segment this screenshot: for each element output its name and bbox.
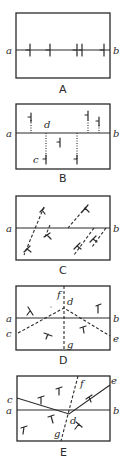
label-d: d — [44, 119, 50, 130]
panel-caption-d: D — [59, 354, 67, 367]
panel-caption-e: E — [60, 446, 67, 459]
panel-a: a b A — [6, 13, 119, 96]
panel-d: a b c d e f g D — [6, 286, 119, 367]
label-a: a — [6, 128, 12, 139]
label-d: d — [67, 296, 73, 307]
label-b: b — [113, 405, 119, 416]
label-b: b — [113, 223, 119, 234]
label-c: c — [7, 394, 13, 405]
panel-e: c a b d e f g E — [6, 375, 119, 459]
panel-b: a b c d B — [6, 104, 119, 185]
label-e: e — [111, 375, 117, 386]
figure-panels: a b A a b c d B — [0, 0, 129, 461]
panel-b-frame — [16, 104, 110, 169]
label-a: a — [6, 405, 12, 416]
panel-caption-b: B — [59, 172, 67, 185]
label-c: c — [6, 328, 12, 339]
label-g: g — [67, 339, 73, 350]
label-b: b — [113, 313, 119, 324]
label-d: d — [70, 415, 76, 426]
label-b: b — [113, 45, 119, 56]
label-g: g — [54, 428, 60, 439]
label-a: a — [6, 313, 12, 324]
label-b: b — [113, 128, 119, 139]
strike-dip-symbol — [28, 111, 99, 164]
label-a: a — [6, 45, 12, 56]
panel-caption-c: C — [59, 264, 67, 277]
label-c: c — [33, 154, 39, 165]
panel-caption-a: A — [59, 83, 67, 96]
label-f: f — [56, 289, 63, 300]
label-e: e — [113, 333, 119, 344]
panel-c: a b C — [6, 196, 119, 277]
trace-f-g — [61, 376, 78, 441]
label-a: a — [6, 223, 12, 234]
label-f: f — [79, 378, 86, 389]
